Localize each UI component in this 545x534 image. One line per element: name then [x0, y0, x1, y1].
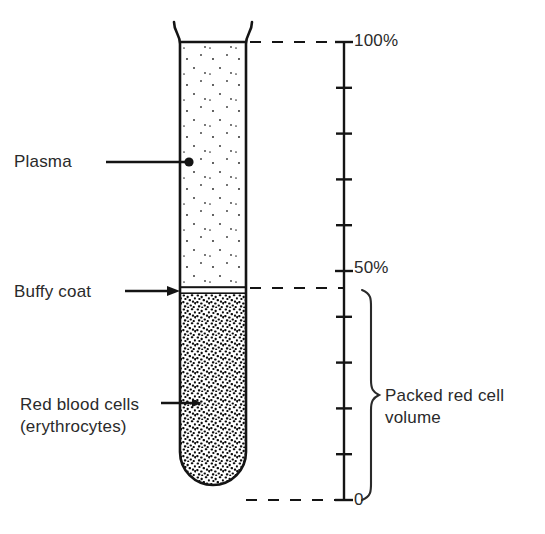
label-packed-red-cell-volume-second-line: volume	[385, 407, 441, 429]
label-packed-red-cell-volume: Packed red cell	[385, 385, 504, 407]
label-buffy-coat: Buffy coat	[14, 281, 91, 303]
scale-label-100-percent: 100%	[354, 30, 398, 52]
label-plasma: Plasma	[14, 151, 72, 173]
scale-label-50-percent: 50%	[354, 257, 389, 279]
diagram-artwork	[0, 0, 545, 534]
label-red-blood-cells: Red blood cells	[20, 394, 139, 416]
hematocrit-figure: Plasma Buffy coat Red blood cells (eryth…	[0, 0, 545, 534]
scale-label-0: 0	[354, 489, 364, 511]
hematocrit-tube	[174, 22, 252, 486]
buffy-coat-leader-arrow	[125, 286, 180, 296]
percent-scale-axis	[335, 42, 353, 500]
label-erythrocytes: (erythrocytes)	[20, 416, 127, 438]
buffy-coat-region	[178, 286, 248, 294]
red-blood-cells-region	[178, 294, 248, 486]
packed-cell-volume-brace	[362, 290, 379, 500]
